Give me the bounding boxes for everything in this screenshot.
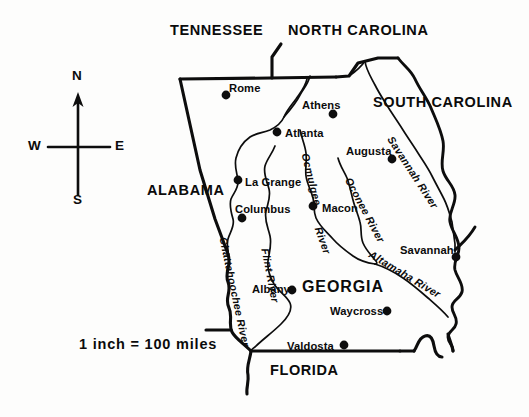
state-label-tennessee: TENNESSEE (170, 23, 263, 38)
state-label-georgia: GEORGIA (302, 279, 384, 295)
compass-east-label: E (115, 139, 124, 153)
alabama-georgia-border-line (180, 79, 228, 254)
state-label-florida: FLORIDA (270, 363, 339, 378)
map-canvas: TENNESSEENORTH CAROLINASOUTH CAROLINAALA… (0, 0, 529, 417)
compass-rose (48, 92, 110, 195)
city-dot-atlanta (273, 128, 282, 137)
compass-south-label: S (73, 193, 82, 207)
florida-coast-outline (414, 336, 442, 357)
city-dot-valdosta (340, 341, 349, 350)
city-label-valdosta: Valdosta (287, 341, 334, 352)
city-label-savannah: Savannah (400, 245, 454, 256)
scale-label: 1 inch = 100 miles (79, 337, 217, 352)
state-label-south-carolina: SOUTH CAROLINA (373, 95, 513, 110)
compass-north-label: N (72, 69, 82, 83)
florida-west-border-line (247, 351, 251, 394)
city-dot-waycross (383, 307, 392, 316)
city-label-waycross: Waycross (330, 306, 383, 317)
compass-west-label: W (28, 139, 41, 153)
city-label-augusta: Augusta (346, 146, 391, 157)
city-dot-la-grange (234, 176, 243, 185)
tennessee-nc-corner-tick (272, 44, 281, 78)
city-label-macon: Macon (322, 203, 358, 214)
state-label-alabama: ALABAMA (147, 183, 225, 198)
city-label-columbus: Columbus (235, 204, 291, 215)
city-label-athens: Athens (302, 100, 341, 111)
state-label-north-carolina: NORTH CAROLINA (288, 23, 429, 38)
tennessee-border-line (180, 77, 336, 79)
city-label-la-grange: La Grange (245, 177, 301, 188)
city-label-rome: Rome (229, 83, 260, 94)
city-label-atlanta: Atlanta (285, 128, 324, 139)
